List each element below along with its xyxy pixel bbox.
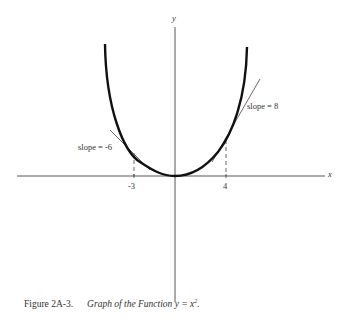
figure-caption: Figure 2A-3.Graph of the Function y = x2… (24, 298, 200, 309)
y-axis-label: y (172, 13, 176, 23)
x-axis-label: x (328, 169, 332, 179)
caption-number: Figure 2A-3. (24, 299, 73, 309)
figure-plot (0, 0, 350, 324)
caption-title-text: Graph of the Function y = x (87, 299, 194, 309)
caption-title: Graph of the Function y = x2. (87, 299, 200, 309)
tick-label-4: 4 (223, 181, 227, 191)
tick-label-neg3: -3 (128, 181, 135, 191)
slope-annotation-right: slope = 8 (247, 101, 278, 111)
caption-suffix: . (197, 299, 199, 309)
slope-annotation-left: slope = -6 (78, 142, 112, 152)
